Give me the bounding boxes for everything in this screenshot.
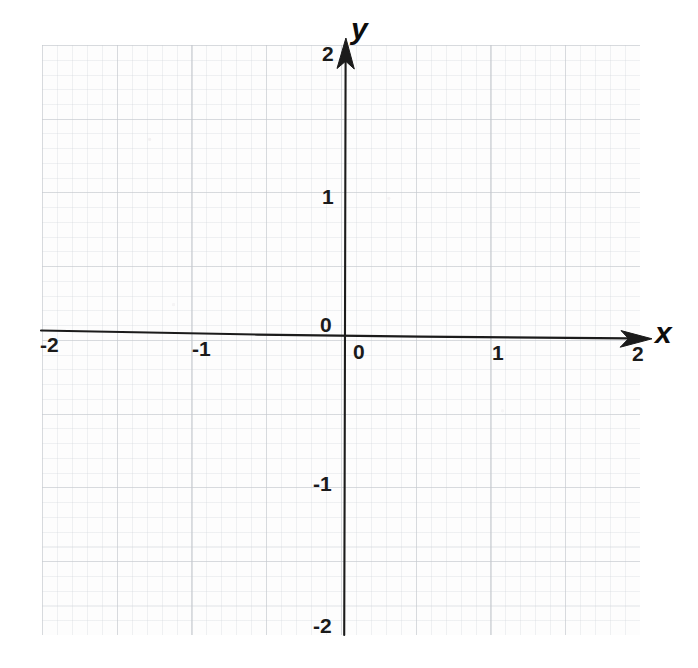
y-tick-label-2: 2 — [322, 43, 334, 64]
y-tick-label--1: -1 — [313, 473, 332, 494]
coordinate-grid-figure: -2 -1 0 1 2 2 1 0 -1 -2 y x — [0, 0, 698, 668]
x-tick-label-0: 0 — [353, 341, 365, 362]
y-axis-label: y — [351, 14, 368, 44]
x-tick-label-1: 1 — [492, 342, 504, 363]
x-axis-label: x — [655, 318, 672, 348]
x-tick-label--1: -1 — [192, 338, 211, 359]
x-tick-label-2: 2 — [632, 343, 644, 364]
y-tick-label-0: 0 — [320, 314, 332, 335]
graph-paper-grid — [42, 45, 640, 635]
x-tick-label--2: -2 — [40, 334, 59, 355]
y-tick-label--2: -2 — [313, 615, 332, 636]
y-tick-label-1: 1 — [322, 186, 334, 207]
